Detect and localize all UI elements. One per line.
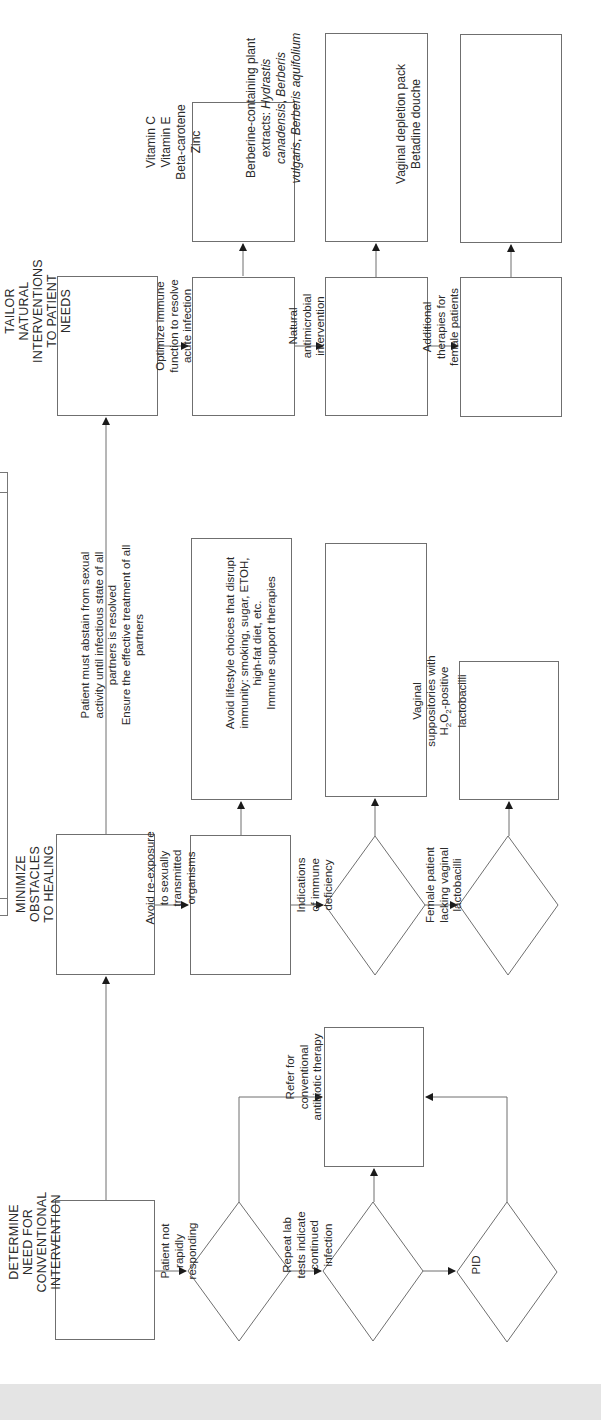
tailor-header-label: TAILOR NATURAL INTERVENTIONS TO PATIENT …: [3, 241, 73, 381]
berberine-label: Berberine-containing plant extracts: Hyd…: [244, 5, 304, 210]
treatment-flowchart: TAILOR NATURAL INTERVENTIONS TO PATIENT …: [0, 0, 601, 1420]
female-therapies-box: Additional therapies for female patients: [460, 277, 562, 417]
repeat-lab-diamond: Repeat lab tests indicate continued infe…: [323, 1202, 423, 1341]
minimize-header-box: MINIMIZE OBSTACLES TO HEALING: [56, 834, 155, 975]
not-responding-diamond: Patient not rapidly responding: [188, 1202, 290, 1341]
footer-band: [0, 1384, 601, 1420]
optimize-immune-label: Optimize immune function to resolve acut…: [154, 257, 195, 396]
suppositories-box: Vaginal suppositories withH2O2-positivel…: [459, 661, 559, 800]
minimize-header-label: MINIMIZE OBSTACLES TO HEALING: [14, 813, 56, 954]
pid-diamond: PID: [457, 1202, 557, 1342]
female-lacto-diamond: Female patient lacking vaginal lactobaci…: [459, 836, 558, 975]
lifestyle-label: Avoid lifestyle choices that disrupt imm…: [224, 518, 278, 768]
refer-antibiotic-box: Refer for conventional antibiotic therap…: [324, 1027, 424, 1167]
natural-antimicrobial-box: Natural antimicrobial intervention: [325, 277, 428, 416]
repeat-lab-label: Repeat lab tests indicate continued infe…: [281, 1180, 335, 1310]
vitamins-label: Vitamin C Vitamin E Beta-carotene Zinc: [144, 72, 204, 212]
cropped-box-divider: [0, 898, 8, 899]
avoid-reexposure-box: Avoid re-exposure to sexually transmitte…: [190, 835, 291, 975]
vaginal-depletion-label: Vaginal depletion pack Betadine douche: [394, 21, 424, 226]
determine-header-box: DETERMINE NEED FOR CONVENTIONAL INTERVEN…: [55, 1200, 155, 1340]
optimize-immune-box: Optimize immune function to resolve acut…: [192, 277, 295, 416]
not-responding-label: Patient not rapidly responding: [159, 1191, 200, 1311]
tailor-header-box: TAILOR NATURAL INTERVENTIONS TO PATIENT …: [57, 276, 158, 416]
natural-antimicrobial-label: Natural antimicrobial intervention: [287, 257, 328, 396]
cropped-box-divider: [0, 492, 8, 493]
cropped-box-left-edge: [0, 472, 8, 916]
abstain-label: Patient must abstain from sexual activit…: [79, 506, 147, 764]
immune-deficiency-label: Indications of immune deficiency: [295, 825, 336, 945]
refer-antibiotic-label: Refer for conventional antibiotic therap…: [284, 1007, 325, 1147]
pid-label: PID: [470, 1235, 484, 1295]
immune-deficiency-diamond: Indications of immune deficiency: [325, 836, 425, 975]
female-therapies-label: Additional therapies for female patients: [421, 257, 462, 397]
female-lacto-label: Female patient lacking vaginal lactobaci…: [423, 820, 464, 950]
avoid-reexposure-label: Avoid re-exposure to sexually transmitte…: [144, 808, 198, 948]
vaginal-depletion-box: Vaginal depletion pack Betadine douche: [460, 34, 562, 243]
suppositories-label: Vaginal suppositories withH2O2-positivel…: [410, 632, 468, 771]
determine-header-label: DETERMINE NEED FOR CONVENTIONAL INTERVEN…: [7, 1172, 63, 1312]
